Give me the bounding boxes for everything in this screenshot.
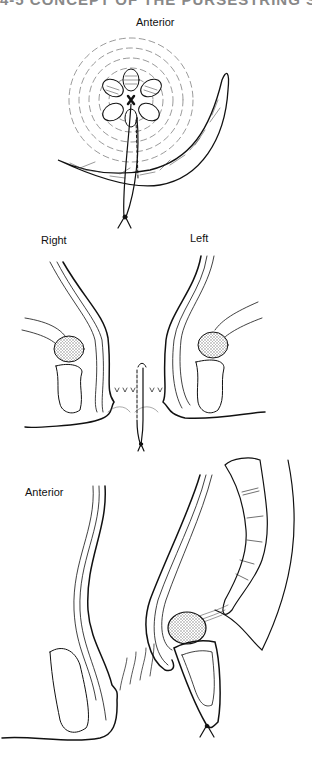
stippled-muscle-right bbox=[54, 336, 84, 362]
rectum bbox=[223, 458, 267, 614]
coronal-view-panel bbox=[22, 256, 265, 451]
top-view-panel bbox=[58, 38, 229, 228]
anatomical-figure bbox=[0, 0, 312, 758]
stippled-puborectalis bbox=[168, 612, 206, 644]
sagittal-view-panel bbox=[2, 458, 294, 740]
stippled-muscle-left bbox=[198, 332, 228, 358]
center-knot bbox=[128, 96, 134, 104]
